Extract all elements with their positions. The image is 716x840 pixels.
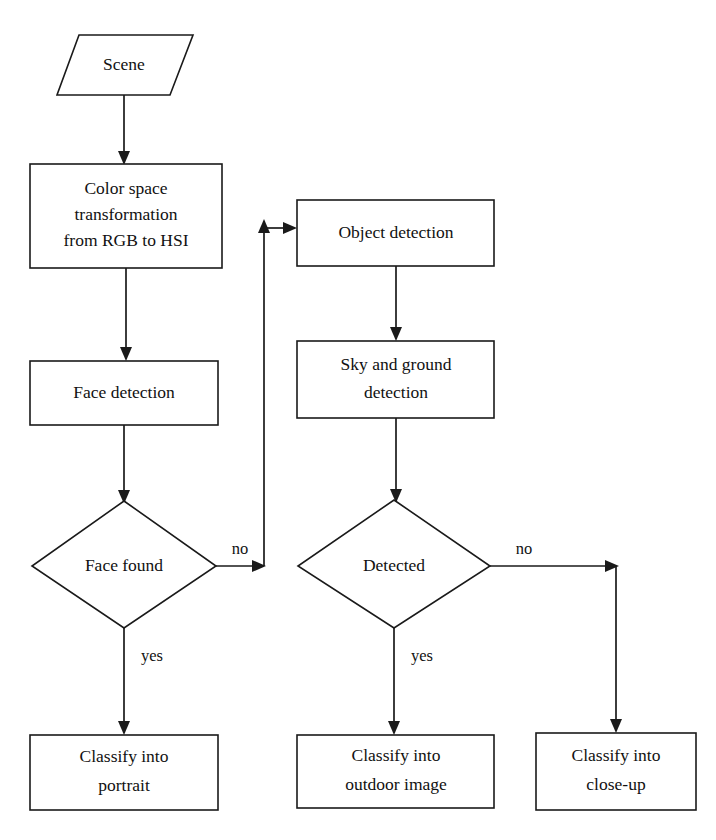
node-classify-closeup[interactable]: Classify into close-up xyxy=(536,733,696,810)
edge-detected-yes-to-outdoor: yes xyxy=(388,628,433,735)
edge-objectdetection-to-skyground xyxy=(390,266,402,341)
node-face-found[interactable]: Face found xyxy=(32,501,216,628)
arrow-head-down-icon xyxy=(118,151,130,165)
arrow-head-down-icon xyxy=(118,721,130,735)
edge-label-face-found-no: no xyxy=(232,539,249,558)
arrow-head-right-icon xyxy=(283,222,297,234)
scene-label: Scene xyxy=(103,54,145,74)
node-sky-ground-detection[interactable]: Sky and ground detection xyxy=(297,341,494,418)
color-space-label-line-2: transformation xyxy=(74,204,177,224)
node-classify-outdoor[interactable]: Classify into outdoor image xyxy=(297,735,494,808)
edge-label-face-found-yes: yes xyxy=(141,646,163,665)
node-scene[interactable]: Scene xyxy=(57,35,193,95)
color-space-label-line-3: from RGB to HSI xyxy=(64,230,189,250)
node-detected[interactable]: Detected xyxy=(298,500,490,628)
arrow-head-down-icon xyxy=(388,721,400,735)
classify-closeup-label-line-1: Classify into xyxy=(572,745,661,765)
sky-ground-detection-rect xyxy=(297,341,494,418)
detected-label: Detected xyxy=(363,555,425,575)
edge-facedetection-to-facefound xyxy=(118,425,130,504)
arrow-head-down-icon xyxy=(610,719,622,733)
face-detection-label: Face detection xyxy=(73,382,175,402)
classify-outdoor-label-line-1: Classify into xyxy=(352,745,441,765)
arrow-head-down-icon xyxy=(120,347,132,361)
edge-label-detected-yes: yes xyxy=(411,646,433,665)
sky-ground-label-line-1: Sky and ground xyxy=(341,354,452,374)
arrow-head-right-icon xyxy=(605,560,619,572)
node-face-detection[interactable]: Face detection xyxy=(30,361,218,425)
face-found-label: Face found xyxy=(85,555,163,575)
object-detection-label: Object detection xyxy=(338,222,453,242)
classify-outdoor-label-line-2: outdoor image xyxy=(345,774,447,794)
edge-colorspace-to-facedetection xyxy=(120,268,132,361)
sky-ground-label-line-2: detection xyxy=(364,382,428,402)
edge-facefound-no-to-objectdetection: no xyxy=(216,219,297,572)
classify-closeup-label-line-2: close-up xyxy=(586,774,646,794)
node-color-space[interactable]: Color space transformation from RGB to H… xyxy=(30,164,222,268)
arrow-head-down-icon xyxy=(390,327,402,341)
arrow-head-up-icon xyxy=(258,219,270,233)
classify-portrait-label-line-2: portrait xyxy=(98,775,150,795)
edge-skyground-to-detected xyxy=(390,418,402,503)
node-object-detection[interactable]: Object detection xyxy=(297,200,494,266)
color-space-label-line-1: Color space xyxy=(84,178,167,198)
flowchart-svg: Scene Color space transformation from RG… xyxy=(0,0,716,840)
edge-label-detected-no: no xyxy=(516,539,533,558)
classify-portrait-label-line-1: Classify into xyxy=(80,746,169,766)
node-classify-portrait[interactable]: Classify into portrait xyxy=(30,735,218,810)
edge-facefound-yes-to-portrait: yes xyxy=(118,628,163,735)
edge-scene-to-colorspace xyxy=(118,95,130,165)
edge-detected-no-to-closeup: no xyxy=(490,539,622,733)
flowchart-canvas: Scene Color space transformation from RG… xyxy=(0,0,716,840)
